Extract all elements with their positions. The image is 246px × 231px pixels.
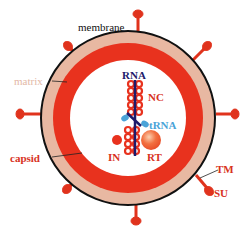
- label-tm: TM: [216, 163, 234, 175]
- label-rt: RT: [147, 151, 162, 163]
- label-trna: tRNA: [149, 119, 177, 131]
- label-su: SU: [214, 187, 228, 199]
- in-sphere: [112, 135, 122, 145]
- spike-top: [133, 10, 143, 33]
- spike-bottom: [131, 203, 141, 225]
- label-rna: RNA: [122, 69, 146, 81]
- spike-top-right: [193, 40, 213, 60]
- label-in: IN: [108, 151, 120, 163]
- label-capsid: capsid: [10, 152, 40, 164]
- label-nc: NC: [148, 91, 164, 103]
- label-matrix: matrix: [14, 75, 43, 87]
- spike-right: [216, 109, 239, 119]
- rt-sphere: [141, 130, 161, 150]
- virion-diagram: [0, 0, 246, 231]
- spike-left: [16, 109, 41, 119]
- label-membrane: membrane: [78, 21, 124, 33]
- spike-bottom-right: [196, 175, 215, 197]
